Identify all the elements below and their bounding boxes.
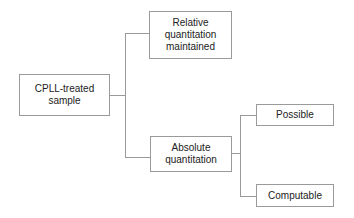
- node-label: Absolute quantitation: [157, 142, 225, 166]
- node-relative-quantitation: Relative quantitation maintained: [149, 11, 232, 59]
- node-computable: Computable: [256, 184, 334, 207]
- connector-level2-vertical: [240, 115, 241, 197]
- node-possible: Possible: [256, 104, 334, 126]
- connector-to-computable: [240, 196, 256, 197]
- node-label: Relative quantitation maintained: [154, 17, 227, 53]
- connector-to-possible: [240, 115, 256, 116]
- connector-to-relative: [125, 33, 149, 34]
- node-cpll-treated-sample: CPLL-treated sample: [19, 74, 110, 116]
- node-label: CPLL-treated sample: [30, 83, 99, 107]
- connector-level1-vertical: [125, 33, 126, 158]
- connector-absolute-out: [232, 153, 240, 154]
- node-label: Computable: [268, 190, 322, 202]
- node-label: Possible: [276, 109, 314, 121]
- node-absolute-quantitation: Absolute quantitation: [150, 136, 232, 172]
- connector-root-out: [110, 95, 125, 96]
- connector-to-absolute: [125, 157, 150, 158]
